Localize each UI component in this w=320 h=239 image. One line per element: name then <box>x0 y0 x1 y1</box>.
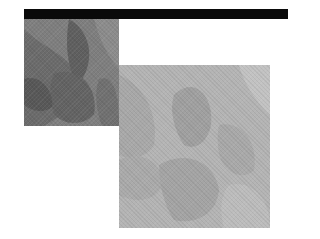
leaf-pattern-icon <box>119 65 270 228</box>
leaf-pattern-icon <box>24 19 119 126</box>
header-bar <box>24 9 288 19</box>
dark-leaf-image <box>24 19 119 126</box>
light-leaf-image <box>119 65 270 228</box>
